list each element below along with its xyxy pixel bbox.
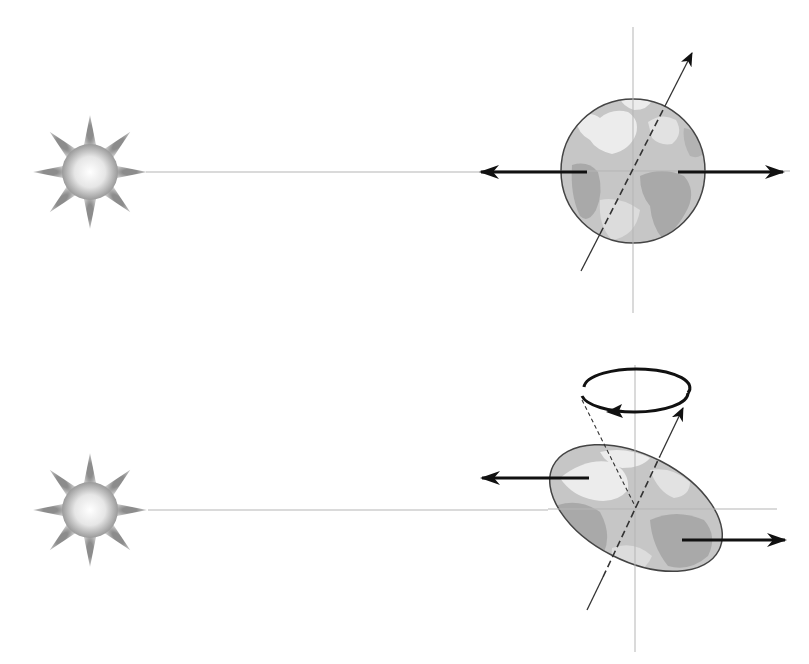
precession-ring-arrow-icon (582, 369, 690, 418)
top-panel (33, 27, 790, 313)
sun-icon (33, 115, 147, 229)
bottom-panel (33, 365, 785, 652)
sun-icon (33, 453, 147, 567)
precession-diagram (0, 0, 809, 664)
